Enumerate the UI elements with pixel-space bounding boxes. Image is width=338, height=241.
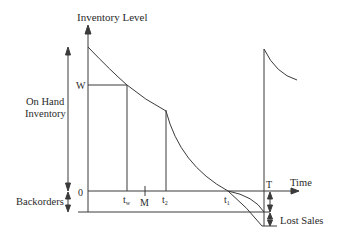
- lost-sales-label: Lost Sales: [280, 215, 323, 226]
- t-backorder-arrow-down-icon: [268, 205, 273, 212]
- y-axis-title: Inventory Level: [77, 11, 148, 23]
- zero-level-label: 0: [78, 187, 83, 198]
- backorders-arrow-up-icon: [66, 192, 71, 199]
- lost-sales-arrow-up-icon: [268, 213, 273, 219]
- m-label: M: [140, 197, 149, 208]
- time-axis-title: Time: [290, 177, 312, 188]
- t-backorder-arrow-up-icon: [268, 192, 273, 199]
- on-hand-label-line2: Inventory: [25, 108, 67, 119]
- on-hand-arrow-down-icon: [66, 183, 71, 191]
- on-hand-arrow-up-icon: [66, 47, 71, 55]
- t-w-label: tw: [123, 194, 131, 206]
- w-level-label: W: [76, 80, 86, 91]
- backorder-curve: [228, 191, 264, 212]
- y-axis-arrow-icon: [85, 25, 91, 34]
- time-axis-arrow-icon: [291, 188, 299, 194]
- inventory-diagram: Inventory Level W On Hand Inventory 0 Ba…: [0, 0, 338, 241]
- next-cycle-curve: [264, 49, 297, 80]
- t-end-label: T: [266, 179, 272, 190]
- t-2-label: t2: [162, 194, 168, 206]
- t-1-label: t1: [224, 194, 230, 206]
- on-hand-label-line1: On Hand: [26, 96, 65, 107]
- backorders-arrow-down-icon: [66, 205, 71, 212]
- inventory-curve-segment-2: [166, 111, 228, 191]
- lost-sales-arrow-down-icon: [268, 220, 273, 226]
- backorders-label: Backorders: [16, 196, 64, 207]
